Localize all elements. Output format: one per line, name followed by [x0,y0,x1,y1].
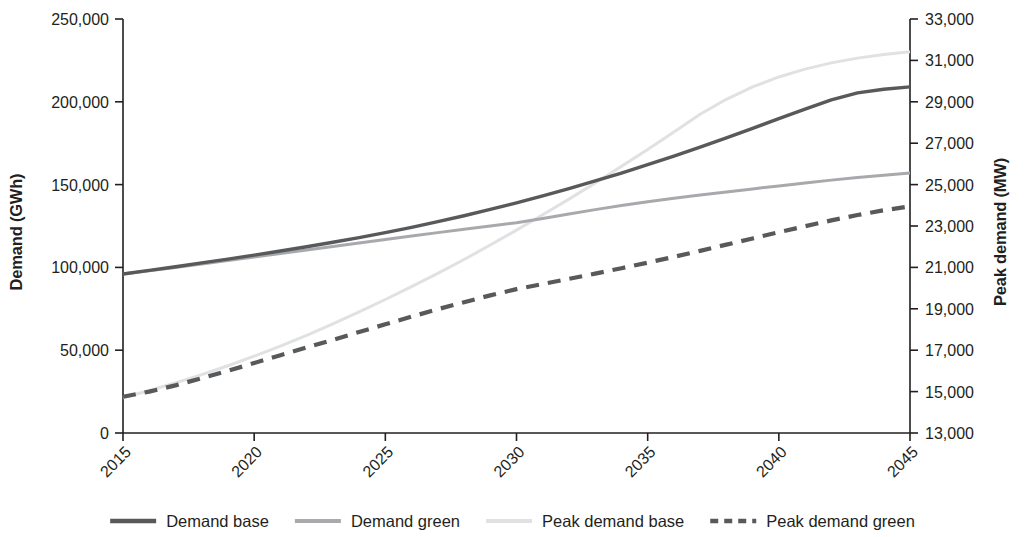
demand-and-peak-demand-chart: Demand (GWh) Peak demand (MW) 050,000100… [0,0,1025,537]
right-axis-tick-label: 13,000 [925,425,974,442]
right-axis-tick-label: 25,000 [925,177,974,194]
left-axis-tick-label: 150,000 [51,177,109,194]
left-axis-tick-label: 250,000 [51,11,109,28]
left-axis-tick-label: 200,000 [51,94,109,111]
left-axis-tick-label: 50,000 [60,342,109,359]
left-axis-title: Demand (GWh) [7,174,25,291]
right-axis-tick-label: 17,000 [925,342,974,359]
legend-label: Peak demand green [766,512,915,530]
right-axis-tick-label: 27,000 [925,135,974,152]
left-axis-tick-label: 100,000 [51,259,109,276]
right-axis-tick-label: 15,000 [925,384,974,401]
right-axis-tick-label: 31,000 [925,52,974,69]
right-axis-tick-label: 33,000 [925,11,974,28]
right-axis-tick-label: 21,000 [925,259,974,276]
legend-label: Demand base [166,512,269,530]
right-axis-title: Peak demand (MW) [991,158,1009,306]
legend-label: Peak demand base [542,512,684,530]
legend-label: Demand green [351,512,460,530]
right-axis-tick-label: 29,000 [925,94,974,111]
right-axis-tick-label: 23,000 [925,218,974,235]
left-axis-tick-label: 0 [100,425,109,442]
right-axis-tick-label: 19,000 [925,301,974,318]
